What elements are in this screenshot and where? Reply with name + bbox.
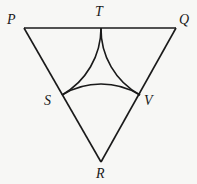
label-p: P [6,12,16,27]
label-v: V [144,93,154,108]
arc-sv [62,84,140,95]
label-t: T [95,4,104,19]
geometry-diagram: P T Q S V R [0,0,197,184]
label-r: R [95,166,105,181]
label-s: S [44,93,51,108]
label-q: Q [179,12,189,27]
